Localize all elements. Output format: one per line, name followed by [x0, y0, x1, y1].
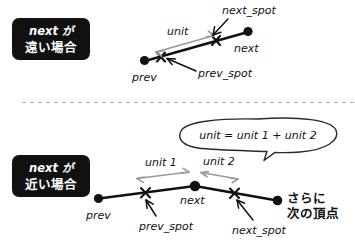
- near-point-prev: [94, 194, 103, 203]
- near-label-unit1: unit 1: [145, 156, 177, 169]
- diagram-root: next が 遠い場合 unit prev: [0, 0, 355, 240]
- callout-bubble-text: unit = unit 1 + unit 2: [199, 129, 316, 142]
- near-unit1-measure-arrow: [137, 168, 189, 182]
- near-label-further-line1: さらに: [287, 191, 326, 206]
- near-leader-prev-spot: [146, 200, 156, 216]
- far-label-next: next: [234, 42, 259, 55]
- badge-far-line1: next が: [29, 24, 76, 38]
- near-leader-next-spot: [237, 200, 253, 220]
- badge-near-line2: 近い場合: [25, 177, 77, 192]
- badge-near-line1: next が: [29, 161, 76, 175]
- far-label-prev-spot: prev_spot: [197, 67, 253, 80]
- near-point-further-vertex: [273, 196, 283, 206]
- far-label-prev: prev: [131, 71, 157, 84]
- far-label-next-spot: next_spot: [222, 4, 277, 17]
- far-leader-prev-spot: [167, 59, 196, 72]
- near-label-next-spot: next_spot: [232, 224, 287, 237]
- far-leader-next-spot: [213, 19, 228, 35]
- near-segment-next-further: [195, 186, 277, 201]
- near-label-unit2: unit 2: [203, 155, 235, 168]
- badge-far: next が 遠い場合: [12, 18, 90, 60]
- near-label-prev: prev: [85, 209, 111, 222]
- near-unit2-measure-arrow: [201, 172, 238, 183]
- badge-far-line2: 遠い場合: [25, 40, 77, 55]
- near-label-prev-spot: prev_spot: [138, 220, 194, 233]
- diagram-canvas: next が 遠い場合 unit prev: [0, 0, 355, 240]
- near-label-next: next: [180, 194, 205, 207]
- far-label-unit: unit: [167, 25, 189, 38]
- badge-near: next が 近い場合: [12, 155, 90, 197]
- far-point-prev: [140, 56, 149, 65]
- far-point-next: [243, 27, 252, 36]
- near-point-next: [190, 181, 200, 191]
- near-label-further-line2: 次の頂点: [287, 206, 339, 221]
